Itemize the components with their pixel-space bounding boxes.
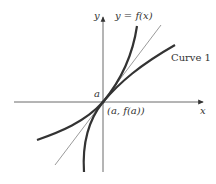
tangency-point xyxy=(102,101,105,104)
x-axis-label: x xyxy=(200,106,206,116)
curve-f-label: y = f(x) xyxy=(115,11,153,21)
curve-f xyxy=(84,26,137,172)
diagram-canvas xyxy=(0,0,216,184)
point-coord-label: (a, f(a)) xyxy=(107,106,145,116)
curve-1-label: Curve 1 xyxy=(171,53,211,63)
curve-1 xyxy=(37,45,175,140)
a-tick-label: a xyxy=(94,89,100,99)
y-axis-label: y xyxy=(94,11,100,21)
